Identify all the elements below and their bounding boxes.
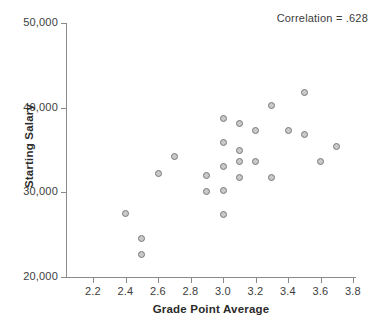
data-point xyxy=(122,210,129,217)
x-axis-tick xyxy=(321,278,322,283)
data-point xyxy=(155,170,162,177)
y-axis-title: Starting Salary xyxy=(23,61,35,231)
y-axis-tick xyxy=(61,192,67,193)
x-axis-line xyxy=(66,277,356,278)
data-point xyxy=(301,89,308,96)
data-point xyxy=(236,120,243,127)
scatter-plot-figure: 2.22.42.62.83.03.23.43.63.8 20,00030,000… xyxy=(0,0,378,329)
correlation-annotation: Correlation = .628 xyxy=(277,12,368,24)
y-axis-tick-label: 50,000 xyxy=(4,16,58,28)
x-axis-tick-label: 3.8 xyxy=(333,285,373,297)
y-axis-tick xyxy=(61,23,67,24)
data-point xyxy=(285,127,292,134)
data-point xyxy=(220,163,227,170)
x-axis-tick xyxy=(158,278,159,283)
x-axis-tick xyxy=(191,278,192,283)
x-axis-tick xyxy=(126,278,127,283)
x-axis-tick xyxy=(256,278,257,283)
data-point xyxy=(171,153,178,160)
plot-area xyxy=(66,16,356,277)
x-axis-tick xyxy=(93,278,94,283)
y-axis-tick xyxy=(61,277,67,278)
data-point xyxy=(252,127,259,134)
y-axis-tick-label: 20,000 xyxy=(4,270,58,282)
x-axis-tick xyxy=(353,278,354,283)
y-axis-tick xyxy=(61,108,67,109)
y-axis-line xyxy=(66,23,67,277)
data-point xyxy=(220,211,227,218)
x-axis-title: Grade Point Average xyxy=(66,303,356,315)
data-point xyxy=(220,139,227,146)
data-point xyxy=(301,131,308,138)
x-axis-tick xyxy=(223,278,224,283)
data-point xyxy=(220,187,227,194)
x-axis-tick xyxy=(288,278,289,283)
data-point xyxy=(220,115,227,122)
data-point xyxy=(138,251,145,258)
data-point xyxy=(236,174,243,181)
